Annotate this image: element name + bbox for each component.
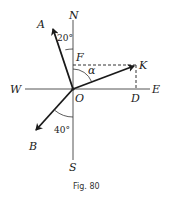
vector-OB	[36, 89, 73, 130]
origin-point	[71, 87, 74, 90]
angle-arc-20	[65, 49, 73, 50]
angle-arc-40	[55, 111, 73, 118]
label-west: W	[10, 83, 23, 96]
label-east: E	[151, 83, 160, 96]
angle-label-40: 40°	[54, 125, 70, 135]
label-K: K	[138, 59, 148, 72]
label-D: D	[130, 92, 140, 105]
angle-label-20: 20°	[57, 33, 73, 43]
vector-diagram: N S W E O A B K F D 20° α 40° Fig. 80	[0, 0, 171, 201]
angle-label-alpha: α	[88, 64, 96, 77]
figure-caption: Fig. 80	[73, 182, 100, 191]
label-north: N	[68, 9, 79, 22]
label-F: F	[75, 51, 84, 64]
label-south: S	[69, 161, 77, 174]
label-A: A	[36, 18, 45, 31]
label-B: B	[28, 140, 37, 153]
label-origin: O	[75, 92, 84, 105]
vector-OK	[73, 66, 134, 89]
